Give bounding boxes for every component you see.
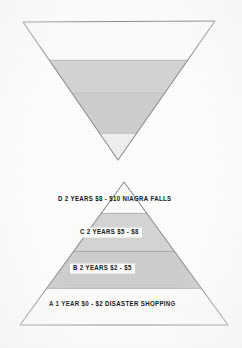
pyramid-label-tier-c: C 2 YEARS $5 - $8 — [77, 227, 142, 237]
funnel-band-lower-mid — [0, 93, 242, 133]
scanned-page: D 2 YEARS $8 - $10 NIAGRA FALLS C 2 YEAR… — [0, 0, 242, 348]
funnel-band-top — [0, 18, 242, 60]
funnel-band-tip — [0, 133, 242, 165]
pyramid-label-tier-d: D 2 YEARS $8 - $10 NIAGRA FALLS — [58, 196, 171, 203]
funnel-band-upper-mid — [0, 60, 242, 93]
funnel-figure — [0, 18, 242, 165]
pyramid-label-tier-b: B 2 YEARS $2 - $5 — [70, 263, 135, 273]
pyramid-label-tier-a: A 1 YEAR $0 - $2 DISASTER SHOPPING — [46, 299, 179, 309]
diagram-canvas — [0, 0, 242, 348]
